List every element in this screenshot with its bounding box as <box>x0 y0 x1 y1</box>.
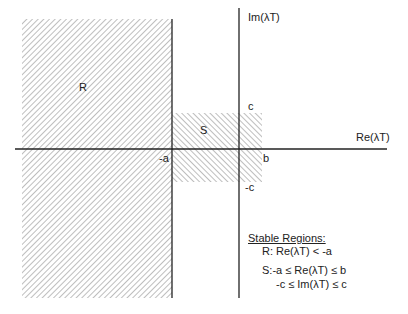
x-axis-label: Re(λT) <box>356 132 390 143</box>
stability-diagram <box>0 0 408 314</box>
legend-s-condition-im: -c ≤ Im(λT) ≤ c <box>248 278 347 291</box>
tick-label-neg-c: -c <box>245 182 254 193</box>
region-r <box>22 19 172 298</box>
legend-r-condition: R: Re(λT) < -a <box>248 245 347 258</box>
tick-label-c: c <box>248 101 254 112</box>
tick-label-neg-a: -a <box>159 153 169 164</box>
tick-label-b: b <box>263 153 269 164</box>
legend-title: Stable Regions: <box>248 232 347 245</box>
region-s-label: S <box>200 125 207 136</box>
legend-s-condition-re: S:-a ≤ Re(λT) ≤ b <box>248 264 347 277</box>
y-axis-label: Im(λT) <box>248 12 280 23</box>
region-r-label: R <box>79 82 87 93</box>
region-s <box>172 113 262 182</box>
legend: Stable Regions: R: Re(λT) < -a S:-a ≤ Re… <box>248 232 347 291</box>
